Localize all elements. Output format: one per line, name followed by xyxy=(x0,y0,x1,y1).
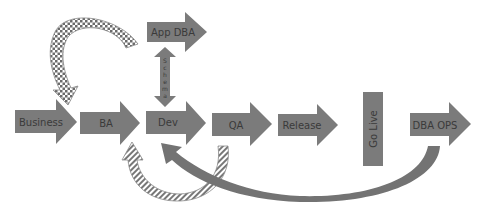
schema-letter: a xyxy=(163,92,167,99)
svg-text:Dev: Dev xyxy=(158,117,178,128)
feedback-arrow-app-dba-to-ba xyxy=(50,18,138,105)
svg-text:QA: QA xyxy=(229,120,244,131)
flow-node-ba: BA xyxy=(80,101,140,145)
schema-letter: m xyxy=(162,85,168,92)
process-flow-diagram: App DBA S c h e m a Business BA Dev QA R… xyxy=(0,0,489,215)
svg-text:BA: BA xyxy=(99,118,113,129)
flow-node-business: Business xyxy=(15,99,77,144)
schema-letter: h xyxy=(163,71,167,78)
app-dba-node: App DBA xyxy=(147,12,207,52)
app-dba-label: App DBA xyxy=(151,27,195,38)
svg-text:Go Live: Go Live xyxy=(368,110,379,147)
svg-text:DBA OPS: DBA OPS xyxy=(413,120,458,131)
schema-double-arrow: S c h e m a xyxy=(154,47,176,107)
svg-text:Business: Business xyxy=(19,117,63,128)
flow-node-dev: Dev xyxy=(146,101,206,145)
flow-node-dba-ops: DBA OPS xyxy=(410,102,471,146)
schema-letter: c xyxy=(163,64,166,71)
flow-node-go-live: Go Live xyxy=(363,92,383,166)
flow-node-release: Release xyxy=(278,104,338,146)
schema-letter: e xyxy=(163,78,167,85)
flow-node-qa: QA xyxy=(212,102,272,146)
schema-letter: S xyxy=(163,57,167,64)
svg-text:Release: Release xyxy=(282,120,321,131)
